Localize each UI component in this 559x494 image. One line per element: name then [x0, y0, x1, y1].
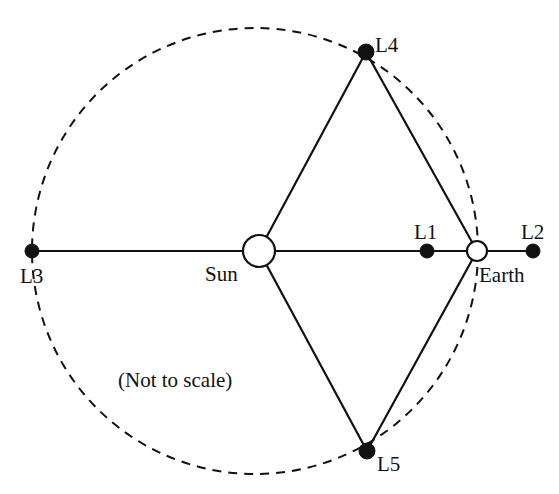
not-to-scale-note: (Not to scale) — [118, 368, 232, 392]
body-marker-sun[interactable] — [243, 235, 275, 267]
label-l5: L5 — [377, 452, 400, 476]
point-marker-l3[interactable] — [25, 244, 39, 258]
l5-to-earth — [367, 251, 477, 451]
point-marker-l5[interactable] — [359, 443, 375, 459]
diagram-labels: L1L2L3L4L5SunEarth — [20, 33, 544, 476]
point-marker-l1[interactable] — [420, 244, 434, 258]
diagram-canvas: L1L2L3L4L5SunEarth (Not to scale) — [0, 0, 559, 494]
sun-to-l4 — [259, 52, 366, 251]
body-marker-earth[interactable] — [467, 241, 487, 261]
label-l1: L1 — [414, 220, 437, 244]
lagrange-points-diagram: L1L2L3L4L5SunEarth (Not to scale) — [0, 0, 559, 494]
connection-lines — [32, 52, 533, 451]
point-marker-l2[interactable] — [526, 244, 540, 258]
label-earth: Earth — [479, 263, 525, 287]
point-marker-l4[interactable] — [358, 44, 374, 60]
label-l4: L4 — [375, 33, 399, 57]
sun-to-l5 — [259, 251, 367, 451]
label-sun: Sun — [205, 262, 238, 286]
label-l3: L3 — [20, 264, 43, 288]
label-l2: L2 — [521, 220, 544, 244]
